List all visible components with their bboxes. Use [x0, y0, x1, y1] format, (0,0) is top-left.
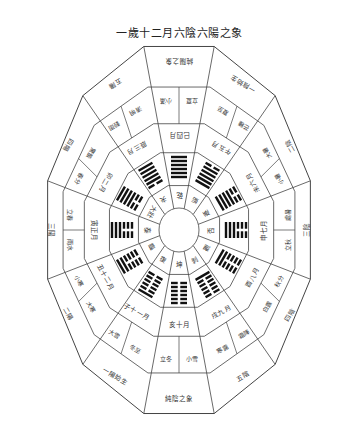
- hexagram-name: 否: [207, 227, 215, 234]
- solar-term-label: 立春: [66, 209, 74, 221]
- outer-ring-label: 純陽之象: [165, 57, 193, 66]
- hexagram-剝-icon: [195, 271, 220, 298]
- hexagram-泰-icon: [111, 222, 133, 238]
- month-label: 戌九月: [210, 303, 233, 321]
- solar-term-label: 小寒: [72, 274, 85, 288]
- solar-term-label: 大寒: [85, 300, 98, 314]
- solar-term-label: 寒露: [215, 342, 229, 355]
- hexagram-name: 觀: [201, 242, 212, 253]
- month-label: 子十一月: [122, 301, 151, 323]
- month-label: 辰三月: [125, 139, 147, 156]
- solar-term-label: 大暑: [260, 146, 273, 160]
- solar-term-label: 穀雨: [107, 120, 121, 133]
- solar-term-label: 冬至: [128, 342, 142, 355]
- solar-term-label: 小暑: [273, 171, 286, 185]
- outer-ring-label: 純陰之象: [165, 394, 193, 403]
- solar-term-label: 夏至: [215, 106, 229, 118]
- outer-ring-label: 三陰: [302, 223, 311, 237]
- hexagram-乾-icon: [171, 156, 187, 178]
- twelve-month-dodecagon-diagram: 乾巳四月小滿立夏純陽之象姤午五月夏至芒種一陰始生遯未六月大暑小暑二陰否申七月處暑…: [0, 0, 359, 437]
- solar-term-label: 立秋: [284, 239, 292, 251]
- hexagram-name: 坤: [176, 260, 183, 269]
- center-circle: [159, 208, 199, 252]
- hexagram-name: 復: [158, 254, 169, 265]
- hexagram-name: 遯: [201, 207, 212, 218]
- month-label: 丑十二月: [95, 263, 117, 292]
- solar-term-label: 春分: [72, 171, 85, 185]
- hexagram-name: 臨: [146, 242, 157, 253]
- outer-ring-label: 一陽始生: [101, 365, 130, 387]
- month-label: 酉八月: [244, 266, 261, 288]
- solar-term-label: 白露: [260, 300, 273, 314]
- outer-ring-label: 一陰始生: [228, 73, 257, 95]
- outer-ring-label: 三陽: [47, 223, 56, 237]
- solar-term-label: 雨水: [66, 239, 74, 251]
- solar-term-label: 霜降: [237, 328, 251, 341]
- hexagram-name: 剝: [189, 254, 200, 265]
- month-label: 亥十月: [169, 320, 190, 329]
- hexagram-name: 乾: [176, 191, 183, 200]
- solar-term-label: 秋分: [273, 274, 286, 288]
- outer-ring-label: 五陰: [234, 369, 251, 384]
- outer-ring-label: 五陽: [107, 77, 124, 92]
- solar-term-label: 立冬: [160, 355, 172, 363]
- hexagram-name: 姤: [189, 194, 200, 205]
- hexagram-否-icon: [225, 222, 247, 238]
- month-label: 巳四月: [169, 131, 190, 139]
- solar-term-label: 大雪: [107, 328, 121, 341]
- outer-ring-label: 四陰: [282, 306, 297, 323]
- hexagram-復-icon: [138, 271, 163, 298]
- month-label: 未六月: [243, 171, 261, 194]
- solar-term-label: 驚蟄: [85, 146, 98, 160]
- solar-term-label: 小雪: [186, 355, 198, 363]
- solar-term-label: 立夏: [186, 98, 198, 105]
- hexagram-glyphs: [111, 156, 247, 304]
- month-label: 寅正月: [90, 220, 99, 241]
- solar-term-label: 處暑: [284, 209, 292, 221]
- solar-term-label: 芒種: [237, 120, 251, 133]
- outer-ring-label: 四陽: [61, 137, 76, 154]
- hexagram-name: 大壯: [144, 204, 159, 221]
- hexagram-夬-icon: [138, 162, 163, 189]
- hexagram-name: 泰: [143, 227, 152, 234]
- hexagram-坤-icon: [171, 282, 187, 304]
- outer-ring-label: 二陽: [61, 306, 76, 323]
- solar-term-label: 小滿: [160, 97, 172, 105]
- month-label: 卯二月: [97, 171, 115, 194]
- hexagram-name: 夬: [158, 194, 169, 205]
- month-label: 午五月: [210, 139, 233, 157]
- sector-dividers: [48, 46, 311, 413]
- hexagram-姤-icon: [195, 162, 220, 189]
- month-label: 申七月: [259, 220, 268, 241]
- outer-ring-label: 二陰: [282, 137, 297, 154]
- solar-term-label: 清明: [128, 105, 142, 118]
